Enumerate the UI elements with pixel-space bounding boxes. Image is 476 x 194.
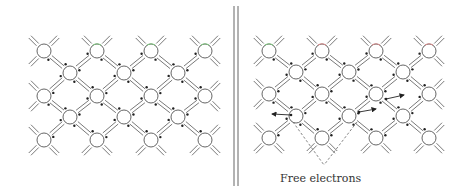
free-electron-lattice-panel [254,36,445,154]
atom-circle [63,110,77,124]
atom-circle [37,133,51,147]
atom-circle [198,133,212,147]
atom-circle [198,89,212,103]
atom-circle [369,87,383,101]
atom-circle [171,110,185,124]
atom-circle [342,65,356,79]
atom-circle [171,66,185,80]
atom-circle [144,89,158,103]
atom-circle [90,44,104,58]
atom-circle [90,133,104,147]
atom-circle [262,131,276,145]
atom-circle [396,65,410,79]
atom-circle [369,44,383,58]
atom-circle [262,87,276,101]
atom-circle [422,131,436,145]
semiconductor-lattice-diagram [0,0,476,194]
atom-circle [117,110,131,124]
atom-circle [37,89,51,103]
atom-circle [342,109,356,123]
callout-dashed-line [324,122,357,165]
free-electron-arrow [359,109,376,112]
atom-circle [422,87,436,101]
atom-circle [315,131,329,145]
atom-circle [198,44,212,58]
free-electron-arrow [272,114,291,115]
atom-circle [144,44,158,58]
atom-circle [90,89,104,103]
atom-circle [315,44,329,58]
atom-circle [289,65,303,79]
free-electron-arrow [386,95,404,99]
atom-circle [37,44,51,58]
atom-circle [144,133,158,147]
atom-circle [315,87,329,101]
atom-circle [396,109,410,123]
atom-circle [63,66,77,80]
free-electrons-label: Free electrons [280,172,361,185]
atom-circle [262,44,276,58]
panel-divider [234,6,238,186]
atom-circle [422,44,436,58]
intact-lattice-panel [29,36,221,156]
atom-circle [369,131,383,145]
atom-circle [117,66,131,80]
